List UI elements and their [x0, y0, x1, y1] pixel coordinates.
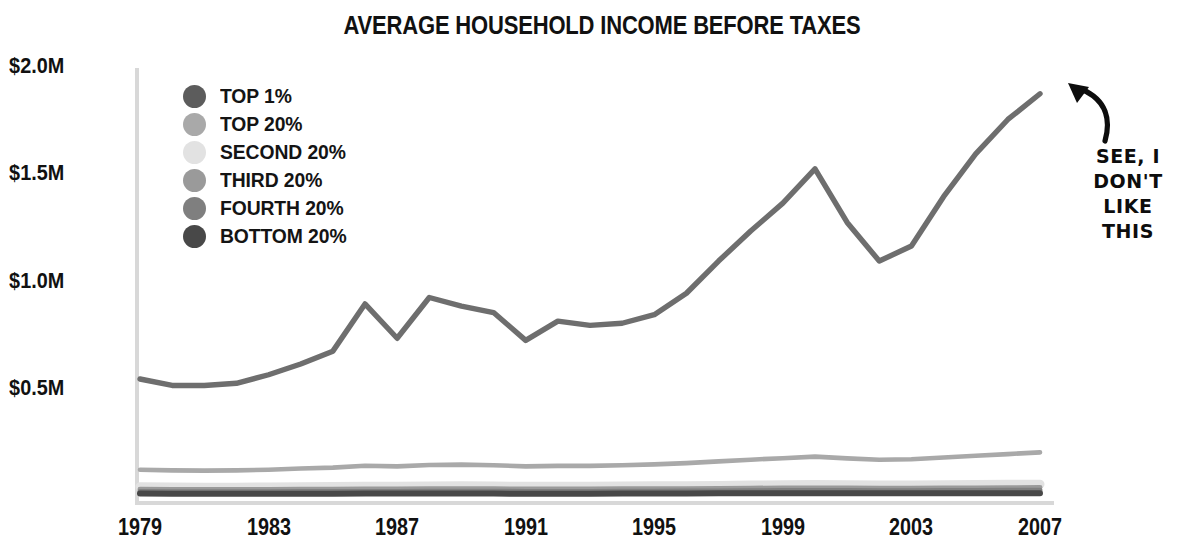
- x-axis-tick-label: 1979: [93, 514, 188, 541]
- curved-arrow-up-left-icon: [1055, 78, 1125, 144]
- legend-swatch-icon: [183, 85, 206, 108]
- legend-item-second-20[interactable]: SECOND 20%: [183, 138, 357, 166]
- legend-item-label: BOTTOM 20%: [220, 224, 346, 248]
- legend-swatch-icon: [183, 225, 206, 248]
- chart-page: AVERAGE HOUSEHOLD INCOME BEFORE TAXES $2…: [0, 0, 1204, 549]
- legend-item-label: THIRD 20%: [220, 168, 322, 192]
- annotation-line: LIKE: [1072, 194, 1184, 219]
- chart-legend: TOP 1%TOP 20%SECOND 20%THIRD 20%FOURTH 2…: [183, 82, 357, 250]
- legend-swatch-icon: [183, 197, 206, 220]
- plot-area: [0, 0, 1204, 549]
- y-axis-tick-label: $1.0M: [9, 268, 64, 294]
- line-chart-svg: [0, 0, 1204, 549]
- x-axis-tick-label: 1987: [350, 514, 445, 541]
- y-axis-tick-label: $1.5M: [9, 160, 64, 186]
- x-axis-tick-label: 1983: [221, 514, 316, 541]
- legend-swatch-icon: [183, 141, 206, 164]
- x-axis-tick-label: 2007: [993, 514, 1088, 541]
- handwritten-annotation: SEE, IDON'TLIKETHIS: [1072, 144, 1184, 244]
- legend-item-label: TOP 20%: [220, 112, 302, 136]
- legend-swatch-icon: [183, 169, 206, 192]
- x-axis-tick-label: 2003: [864, 514, 959, 541]
- legend-item-label: FOURTH 20%: [220, 196, 344, 220]
- legend-item-fourth-20[interactable]: FOURTH 20%: [183, 194, 357, 222]
- series-line-top-20: [140, 452, 1040, 470]
- x-axis-tick-label: 1991: [478, 514, 573, 541]
- legend-swatch-icon: [183, 113, 206, 136]
- annotation-line: DON'T: [1072, 169, 1184, 194]
- x-axis-tick-label: 1999: [736, 514, 831, 541]
- annotation-line: SEE, I: [1072, 144, 1184, 169]
- y-axis-tick-label: $2.0M: [9, 53, 64, 79]
- legend-item-third-20[interactable]: THIRD 20%: [183, 166, 357, 194]
- legend-item-label: TOP 1%: [220, 84, 292, 108]
- legend-item-top-1[interactable]: TOP 1%: [183, 82, 357, 110]
- legend-item-bottom-20[interactable]: BOTTOM 20%: [183, 222, 357, 250]
- legend-item-top-20[interactable]: TOP 20%: [183, 110, 357, 138]
- x-axis-tick-label: 1995: [607, 514, 702, 541]
- annotation-line: THIS: [1072, 219, 1184, 244]
- series-line-bottom-20: [140, 493, 1040, 494]
- legend-item-label: SECOND 20%: [220, 140, 346, 164]
- y-axis-tick-label: $0.5M: [9, 375, 64, 401]
